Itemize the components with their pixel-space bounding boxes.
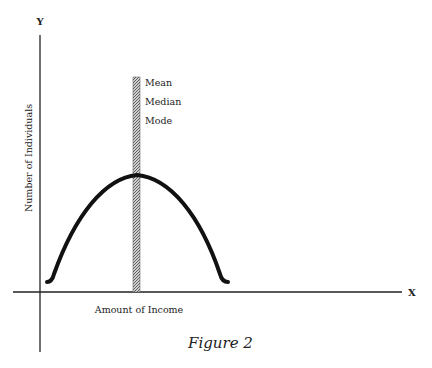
y-axis-label: Number of Individuals xyxy=(23,104,34,212)
figure-caption: Figure 2 xyxy=(187,334,253,352)
x-axis-label: Amount of Income xyxy=(94,304,184,315)
median-label: Median xyxy=(145,96,181,107)
x-axis-letter: X xyxy=(408,287,416,298)
mode-label: Mode xyxy=(145,115,173,126)
y-axis-letter: Y xyxy=(35,16,44,27)
central-tendency-bar xyxy=(133,77,140,292)
mean-label: Mean xyxy=(145,77,172,88)
figure-canvas: Y X Number of Individuals Amount of Inco… xyxy=(0,0,432,368)
